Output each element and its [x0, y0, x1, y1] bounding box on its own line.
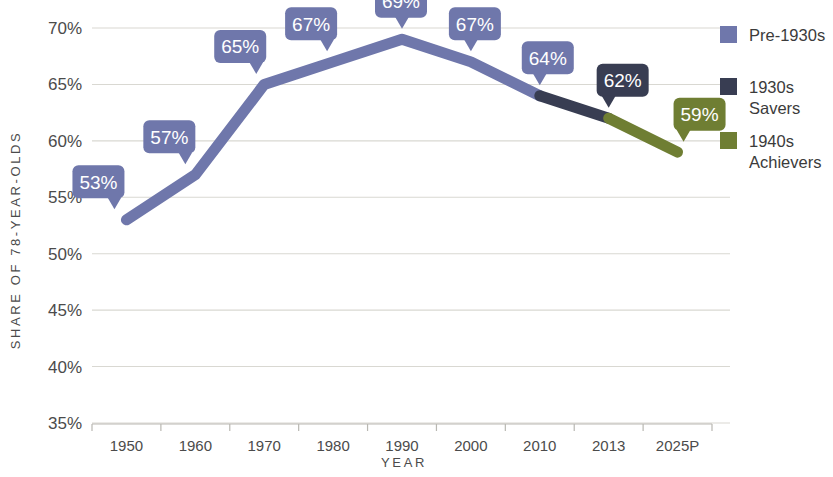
- badge-value-label: 69%: [382, 0, 420, 12]
- legend-label: 1940s: [749, 132, 794, 150]
- y-axis-title: SHARE OF 78-YEAR-OLDS: [8, 131, 23, 350]
- x-axis-tick-label: 2010: [523, 437, 556, 454]
- badge-pointer: [249, 62, 263, 74]
- data-point-badge: 67%: [449, 7, 501, 51]
- data-point-labels: 53%57%65%67%69%67%64%62%59%: [72, 0, 725, 209]
- legend-label-line2: Achievers: [749, 153, 821, 171]
- badge-value-label: 67%: [292, 14, 330, 35]
- badge-value-label: 57%: [150, 127, 188, 148]
- data-point-badge: 59%: [674, 98, 726, 142]
- x-axis-title: YEAR: [381, 455, 427, 470]
- legend-item-1940s-achievers[interactable]: 1940sAchievers: [720, 132, 821, 171]
- series-line-1940s-achievers: [609, 118, 678, 152]
- data-point-badge: 64%: [522, 41, 574, 85]
- legend-item-pre-1930s[interactable]: Pre-1930s: [720, 26, 825, 44]
- y-axis-tick-label: 60%: [48, 132, 82, 151]
- badge-value-label: 67%: [456, 14, 494, 35]
- badge-value-label: 64%: [529, 48, 567, 69]
- y-axis-tick-labels: 70%65%60%55%50%45%40%35%: [48, 19, 82, 433]
- badge-pointer: [464, 39, 478, 51]
- data-point-badge: 65%: [214, 30, 266, 74]
- data-point-badge: 67%: [285, 7, 337, 51]
- x-axis-tick-label: 2013: [592, 437, 625, 454]
- badge-pointer: [107, 197, 121, 209]
- badge-value-label: 59%: [681, 104, 719, 125]
- x-axis-tick-label: 2025P: [656, 437, 699, 454]
- x-axis-tick-label: 1950: [110, 437, 143, 454]
- badge-pointer: [395, 17, 409, 29]
- y-axis-tick-label: 50%: [48, 245, 82, 264]
- y-axis-tick-label: 65%: [48, 75, 82, 94]
- x-axis-tick-label: 2000: [454, 437, 487, 454]
- badge-pointer: [320, 39, 334, 51]
- legend-label: 1930s: [749, 78, 794, 96]
- x-axis-tick-label: 1960: [179, 437, 212, 454]
- legend: Pre-1930s1930sSavers1940sAchievers: [720, 26, 825, 171]
- x-axis-tick-label: 1970: [248, 437, 281, 454]
- badge-value-label: 53%: [79, 172, 117, 193]
- y-axis-tick-label: 40%: [48, 358, 82, 377]
- x-axis-tick-label: 1990: [385, 437, 418, 454]
- legend-swatch: [720, 132, 737, 149]
- x-axis: [92, 424, 712, 431]
- y-axis-tick-label: 45%: [48, 301, 82, 320]
- line-chart-canvas: 70%65%60%55%50%45%40%35% 195019601970198…: [0, 0, 833, 477]
- series-line-1930s-savers: [540, 96, 609, 119]
- data-point-badge: 62%: [597, 64, 649, 108]
- legend-label: Pre-1930s: [749, 26, 825, 44]
- legend-label-line2: Savers: [749, 99, 800, 117]
- y-axis-tick-label: 70%: [48, 19, 82, 38]
- badge-pointer: [602, 96, 616, 108]
- badge-value-label: 65%: [221, 36, 259, 57]
- legend-item-1930s-savers[interactable]: 1930sSavers: [720, 78, 800, 117]
- legend-swatch: [720, 26, 737, 43]
- badge-value-label: 62%: [604, 70, 642, 91]
- x-axis-tick-labels: 195019601970198019902000201020132025P: [110, 437, 699, 454]
- badge-pointer: [677, 130, 691, 142]
- badge-pointer: [178, 152, 192, 164]
- chart-figure: 70%65%60%55%50%45%40%35% 195019601970198…: [0, 0, 833, 477]
- data-series-lines: [126, 39, 677, 220]
- badge-pointer: [533, 73, 547, 85]
- data-point-badge: 57%: [143, 120, 195, 164]
- y-axis-tick-label: 35%: [48, 414, 82, 433]
- legend-swatch: [720, 78, 737, 95]
- x-axis-tick-label: 1980: [316, 437, 349, 454]
- data-point-badge: 69%: [375, 0, 427, 29]
